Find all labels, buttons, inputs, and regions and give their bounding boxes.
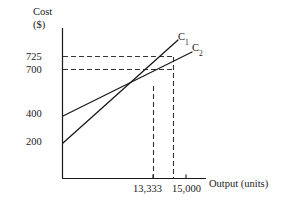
y-tick-label-700: 700 bbox=[26, 64, 42, 75]
series-label-c1-subscript: 1 bbox=[185, 38, 189, 47]
x-axis-title: Output (units) bbox=[209, 178, 268, 189]
series-label-c2-base: C bbox=[192, 42, 199, 53]
series-line-c1 bbox=[63, 40, 178, 143]
series-label-c2-subscript: 2 bbox=[199, 49, 203, 58]
series-line-c2 bbox=[63, 52, 192, 116]
y-axis-title-line2: ($) bbox=[33, 19, 45, 30]
x-tick-label-15000: 15,000 bbox=[172, 183, 201, 194]
chart-figure: Cost ($) Output (units) 725 700 400 200 … bbox=[0, 0, 305, 218]
series-label-c2: C2 bbox=[192, 42, 203, 56]
y-tick-label-200: 200 bbox=[26, 136, 42, 147]
series-label-c1: C1 bbox=[178, 31, 189, 45]
y-tick-label-725: 725 bbox=[26, 51, 42, 62]
x-tick-label-13333: 13,333 bbox=[133, 183, 162, 194]
series-label-c1-base: C bbox=[178, 31, 185, 42]
y-axis-title-line1: Cost bbox=[33, 6, 52, 17]
y-tick-label-400: 400 bbox=[26, 108, 42, 119]
